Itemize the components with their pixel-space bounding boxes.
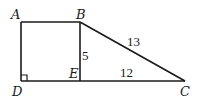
label-e: E <box>68 66 79 81</box>
label-a: A <box>10 7 20 22</box>
label-d: D <box>11 84 23 98</box>
measure-be: 5 <box>82 48 89 63</box>
measure-bc: 13 <box>127 34 140 49</box>
right-angle-marker <box>21 75 27 81</box>
measure-ec: 12 <box>120 65 133 80</box>
trapezoid-diagram: A B C D E 5 12 13 <box>0 0 200 98</box>
label-c: C <box>180 84 190 98</box>
label-b: B <box>75 7 86 22</box>
